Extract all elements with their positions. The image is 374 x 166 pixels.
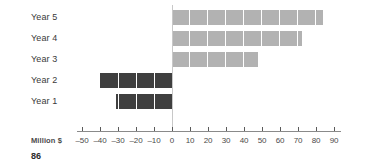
x-axis-tick [244,127,245,131]
bar-segment [244,31,262,46]
x-axis-tick-label: 10 [186,136,195,145]
bar-segment [208,10,226,25]
x-axis-tick [226,127,227,131]
bar-chart: Year 1Year 2Year 3Year 4Year 5–50–40–30–… [0,0,374,166]
x-axis-tick-label: 20 [204,136,213,145]
category-label-year-3: Year 3 [31,53,57,65]
category-label-year-1: Year 1 [31,95,57,107]
x-axis-tick-label: –20 [129,136,142,145]
x-axis-tick [190,127,191,131]
x-axis-tick [136,127,137,131]
bar-segment [226,31,244,46]
bar-segment [262,10,280,25]
x-axis-tick-label: 60 [276,136,285,145]
bar-segment [154,94,172,109]
x-axis-tick-label: 50 [258,136,267,145]
bar-segment [190,10,208,25]
x-axis-tick-label: 40 [240,136,249,145]
x-axis-tick-label: –50 [75,136,88,145]
bar-segment [298,10,316,25]
bar-segment [136,94,154,109]
x-axis-tick [82,127,83,131]
bar-segment [154,73,172,88]
x-axis-tick [298,127,299,131]
bar-segment [298,31,302,46]
x-axis-tick-label: 0 [170,136,174,145]
bar-segment [172,52,190,67]
bar-segment [244,52,258,67]
bar-segment [190,52,208,67]
bar-segment [262,31,280,46]
bar-year-3 [172,52,258,67]
x-axis-tick-label: –30 [111,136,124,145]
bar-segment [136,73,154,88]
page-number: 86 [31,151,41,161]
x-axis-line [77,131,341,132]
x-axis-tick-label: 70 [294,136,303,145]
x-axis-tick-label: 80 [312,136,321,145]
x-axis-unit-label: Million $ [31,136,62,145]
x-axis-tick [280,127,281,131]
bar-segment [280,31,298,46]
x-axis-tick [154,127,155,131]
zero-reference-line [172,5,173,131]
bar-segment [208,52,226,67]
category-label-year-2: Year 2 [31,74,57,86]
bar-year-5 [172,10,323,25]
bar-segment [172,10,190,25]
bar-segment [226,10,244,25]
x-axis-tick [118,127,119,131]
x-axis-tick [334,127,335,131]
bar-segment [316,10,323,25]
bar-segment [118,73,136,88]
bar-segment [100,73,118,88]
x-axis-tick [100,127,101,131]
bar-segment [226,52,244,67]
x-axis-tick-label: –10 [147,136,160,145]
x-axis-tick [262,127,263,131]
bar-segment [244,10,262,25]
category-label-year-4: Year 4 [31,32,57,44]
x-axis-tick-label: –40 [93,136,106,145]
x-axis-tick [208,127,209,131]
bar-year-2 [100,73,172,88]
x-axis-tick [316,127,317,131]
bar-segment [190,31,208,46]
bar-year-1 [116,94,172,109]
x-axis-tick [172,127,173,131]
x-axis-tick-label: 30 [222,136,231,145]
x-axis-tick-label: 90 [330,136,339,145]
bar-segment [172,31,190,46]
bar-segment [208,31,226,46]
category-label-year-5: Year 5 [31,11,57,23]
bar-segment [118,94,136,109]
bar-year-4 [172,31,302,46]
bar-segment [280,10,298,25]
